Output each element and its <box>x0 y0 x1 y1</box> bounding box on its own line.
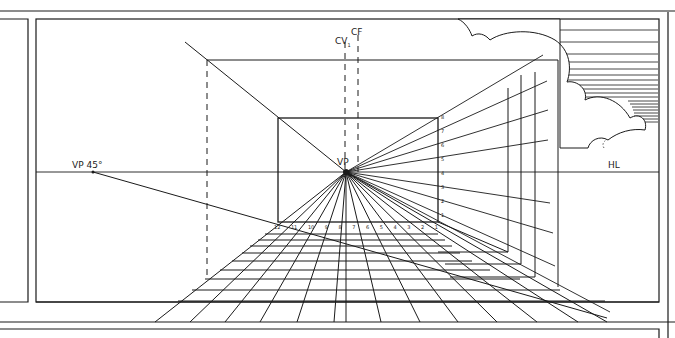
wall-number: 1 <box>441 212 444 218</box>
cv-text: CV <box>335 36 347 46</box>
base-number: 10 <box>308 224 314 230</box>
base-number: 2 <box>421 224 424 230</box>
wall-number: 8 <box>441 114 444 120</box>
base-number: 7 <box>352 224 355 230</box>
diagonal-line <box>185 42 346 172</box>
vanishing-point-marker <box>343 169 349 175</box>
wall-number: 2 <box>441 198 444 204</box>
base-number: 6 <box>366 224 369 230</box>
base-number: 12 <box>274 224 280 230</box>
base-number: 1 <box>435 224 438 230</box>
wall-number-scale: 8 7 6 5 4 3 2 1 <box>441 114 444 218</box>
cv-subscript: 1 <box>347 42 350 48</box>
wall-number: 3 <box>441 184 444 190</box>
wall-number: 6 <box>441 142 444 148</box>
wall-number: 7 <box>441 128 444 134</box>
base-number: 9 <box>325 224 328 230</box>
base-number: 8 <box>339 224 342 230</box>
perspective-diagram: VP VP 45° CV1 CF HL 12 11 10 9 8 7 6 5 4… <box>0 0 675 338</box>
construction-dashes <box>207 35 358 278</box>
base-number: 5 <box>380 224 383 230</box>
base-number: 3 <box>407 224 410 230</box>
wall-number: 5 <box>441 156 444 162</box>
vp45-line <box>93 172 607 318</box>
cv-label: CV1 <box>335 36 351 48</box>
base-number: 11 <box>291 224 297 230</box>
cf-label: CF <box>351 27 362 37</box>
floor-orthogonals <box>155 172 607 322</box>
hl-label: HL <box>608 160 620 170</box>
base-number: 4 <box>394 224 397 230</box>
wall-number: 4 <box>441 170 444 176</box>
base-number-scale: 12 11 10 9 8 7 6 5 4 3 2 1 <box>274 224 438 230</box>
vp-label: VP <box>337 157 349 167</box>
vp45-label: VP 45° <box>72 160 102 170</box>
